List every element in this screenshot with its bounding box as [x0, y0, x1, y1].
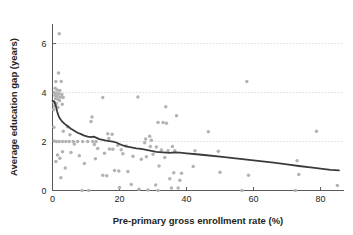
data-point [217, 150, 221, 154]
data-point [156, 121, 160, 125]
data-point [315, 130, 319, 134]
data-point [106, 132, 110, 136]
data-point [143, 141, 147, 145]
data-point [129, 183, 133, 187]
data-point [144, 137, 148, 141]
data-point [245, 80, 249, 84]
data-point [148, 134, 152, 138]
data-point [61, 130, 65, 134]
data-point [60, 103, 64, 107]
data-point [157, 164, 161, 168]
data-point [58, 156, 62, 160]
data-point [59, 80, 63, 84]
data-point [73, 142, 77, 146]
data-point [146, 188, 150, 192]
data-point [117, 169, 121, 173]
data-point [54, 80, 58, 84]
data-point [113, 169, 117, 173]
data-point [137, 188, 141, 192]
data-point [59, 176, 63, 180]
y-tick-label-6: 6 [41, 39, 46, 49]
data-point [90, 115, 94, 119]
y-axis-title: Average education gap (years) [8, 38, 19, 176]
data-point [91, 140, 95, 144]
data-point [295, 159, 299, 163]
data-point [69, 151, 73, 155]
data-point [180, 172, 184, 176]
data-point [155, 145, 159, 149]
x-tick-label-20: 20 [115, 194, 125, 204]
data-point [118, 186, 122, 190]
scatter-chart-figure: 020406080 0246 Pre-primary gross enrollm… [0, 0, 353, 235]
data-point [178, 178, 182, 182]
data-point [150, 139, 154, 143]
data-point [68, 133, 72, 137]
data-point [168, 177, 172, 181]
data-point [172, 171, 176, 175]
data-point [297, 173, 301, 177]
data-point [161, 121, 165, 125]
data-point [171, 145, 175, 149]
data-point [83, 162, 87, 166]
data-point [80, 189, 84, 193]
data-point [111, 148, 115, 152]
data-point [156, 189, 160, 193]
data-point [175, 114, 179, 118]
y-tick-label-0: 0 [41, 186, 46, 196]
data-point [96, 147, 100, 151]
data-point [121, 152, 125, 156]
data-point [136, 95, 140, 99]
data-point [54, 160, 58, 164]
data-point [336, 184, 340, 188]
data-point [108, 147, 112, 151]
scatter-points-group [52, 32, 339, 192]
data-point [119, 148, 123, 152]
data-point [164, 105, 168, 109]
x-tick-label-0: 0 [50, 194, 55, 204]
data-point [247, 174, 251, 178]
data-point [151, 153, 155, 157]
y-tick-label-2: 2 [41, 137, 46, 147]
data-point [145, 155, 149, 159]
data-point [149, 145, 153, 149]
data-point [105, 174, 109, 178]
data-point [94, 157, 98, 161]
data-point [110, 132, 114, 136]
data-point [89, 120, 93, 124]
data-point [61, 140, 65, 144]
data-point [57, 32, 61, 36]
y-tick-label-group: 0246 [41, 39, 46, 196]
data-point [163, 156, 167, 160]
data-point [94, 140, 98, 144]
data-point [101, 96, 105, 100]
data-point [294, 189, 298, 193]
data-point [170, 186, 174, 190]
x-tick-group [53, 187, 321, 191]
chart-canvas: 020406080 0246 Pre-primary gross enrollm… [0, 0, 353, 235]
data-point [240, 189, 244, 193]
data-point [61, 96, 65, 100]
data-point [193, 149, 197, 153]
data-point [76, 140, 80, 144]
data-point [52, 108, 56, 112]
data-point [56, 153, 60, 157]
data-point [218, 170, 222, 174]
data-point [87, 189, 91, 193]
data-point [63, 166, 67, 170]
x-tick-label-80: 80 [316, 194, 326, 204]
data-point [140, 157, 144, 161]
data-point [58, 99, 62, 103]
gridlines-group [53, 44, 345, 142]
y-tick-group [53, 44, 57, 191]
x-tick-label-group: 020406080 [50, 194, 326, 204]
data-point [93, 143, 97, 147]
data-point [101, 174, 105, 178]
data-point [86, 140, 90, 144]
data-point [126, 170, 130, 174]
data-point [154, 183, 158, 187]
data-point [165, 121, 169, 125]
data-point [68, 140, 72, 144]
data-point [176, 186, 180, 190]
data-point [191, 165, 195, 169]
data-point [64, 140, 68, 144]
